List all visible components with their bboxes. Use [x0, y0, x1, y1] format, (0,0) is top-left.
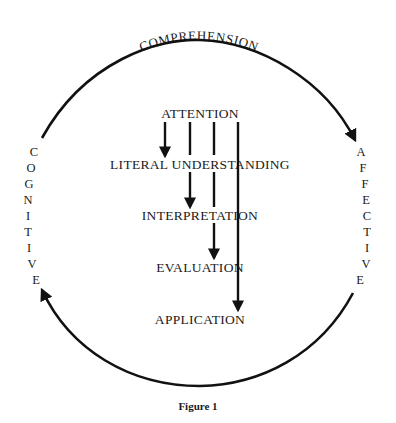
- svg-text:I: I: [27, 241, 31, 255]
- svg-text:F: F: [360, 161, 367, 175]
- stage-attention: ATTENTION: [161, 106, 239, 121]
- svg-text:E: E: [32, 273, 40, 287]
- svg-text:T: T: [24, 225, 32, 239]
- affective-label: A F F E C T I V E: [356, 145, 371, 287]
- svg-text:F: F: [362, 177, 369, 191]
- bottom-arc-arrow: [42, 290, 353, 386]
- svg-text:T: T: [363, 225, 371, 239]
- svg-text:V: V: [361, 257, 370, 271]
- svg-text:I: I: [365, 241, 369, 255]
- figure-caption: Figure 1: [178, 400, 217, 412]
- stage-evaluation: EVALUATION: [156, 260, 244, 275]
- svg-text:N: N: [23, 193, 32, 207]
- svg-text:C: C: [363, 209, 371, 223]
- top-arc-arrow: [42, 40, 355, 140]
- svg-text:O: O: [26, 161, 35, 175]
- svg-text:E: E: [356, 273, 364, 287]
- stage-application: APPLICATION: [155, 312, 245, 327]
- svg-text:C: C: [30, 145, 38, 159]
- svg-text:V: V: [27, 257, 36, 271]
- svg-text:I: I: [26, 209, 30, 223]
- stage-interpretation: INTERPRETATION: [142, 208, 258, 223]
- svg-text:G: G: [24, 177, 33, 191]
- svg-text:E: E: [362, 193, 370, 207]
- svg-text:A: A: [356, 145, 365, 159]
- stage-literal-understanding: LITERAL UNDERSTANDING: [110, 157, 290, 172]
- comprehension-diagram: COMPREHENSION C O G N I T I V E A F F E …: [0, 0, 396, 423]
- cognitive-label: C O G N I T I V E: [23, 145, 40, 287]
